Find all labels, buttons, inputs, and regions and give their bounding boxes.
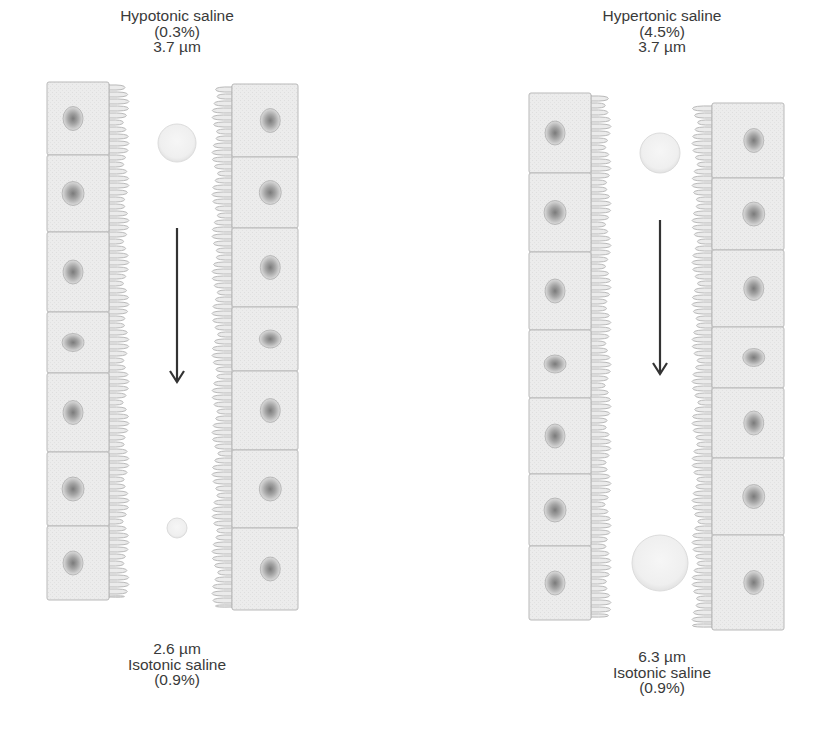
nucleus <box>544 355 566 373</box>
epithelial-cell <box>232 84 298 157</box>
droplet-final <box>632 535 688 591</box>
nucleus <box>260 256 280 280</box>
nucleus <box>544 201 566 225</box>
left-cell-column <box>47 82 129 600</box>
nucleus <box>62 182 84 206</box>
nucleus <box>260 399 280 423</box>
droplet-size-end: 6.3 µm <box>567 649 757 665</box>
epithelial-cell <box>232 307 298 371</box>
solution-name: Isotonic saline <box>87 657 267 673</box>
nucleus <box>63 107 83 131</box>
nucleus <box>63 260 83 284</box>
nucleus <box>544 498 566 522</box>
epithelial-cell <box>232 450 298 528</box>
hypotonic-top-label: Hypotonic saline (0.3%) 3.7 µm <box>87 8 267 55</box>
microvilli <box>109 84 129 598</box>
solution-name: Hypotonic saline <box>87 8 267 24</box>
epithelial-cell <box>47 312 109 373</box>
nucleus <box>744 411 764 435</box>
microvilli <box>591 95 611 618</box>
epithelial-cell <box>712 535 784 630</box>
epithelial-cell <box>712 388 784 458</box>
down-arrow-icon <box>653 220 667 374</box>
epithelial-cell <box>47 373 109 452</box>
nucleus <box>743 349 765 367</box>
nucleus <box>259 477 281 501</box>
solution-concentration: (4.5%) <box>567 24 757 40</box>
right-cell-column <box>692 103 784 630</box>
epithelial-cell <box>529 252 591 330</box>
nucleus <box>744 277 764 301</box>
nucleus <box>259 181 281 205</box>
solution-concentration: (0.3%) <box>87 24 267 40</box>
epithelial-cell <box>712 458 784 535</box>
nucleus <box>260 557 280 581</box>
microvilli <box>692 105 712 628</box>
epithelial-cell <box>712 250 784 327</box>
nucleus <box>545 424 565 448</box>
epithelial-cell <box>529 474 591 546</box>
nucleus <box>743 202 765 226</box>
nucleus <box>63 401 83 425</box>
solution-name: Hypertonic saline <box>567 8 757 24</box>
nucleus <box>259 330 281 348</box>
nucleus <box>743 485 765 509</box>
epithelial-cell <box>712 178 784 250</box>
hypertonic-top-label: Hypertonic saline (4.5%) 3.7 µm <box>567 8 757 55</box>
epithelial-cell <box>47 82 109 155</box>
right-cell-column <box>212 84 298 610</box>
nucleus <box>744 129 764 153</box>
epithelial-cell <box>529 546 591 620</box>
solution-concentration: (0.9%) <box>567 680 757 696</box>
nucleus <box>545 571 565 595</box>
nucleus <box>63 551 83 575</box>
nucleus <box>545 279 565 303</box>
epithelial-cell <box>232 528 298 610</box>
epithelial-cell <box>712 103 784 178</box>
droplet-initial <box>158 124 196 162</box>
epithelial-cell <box>232 228 298 307</box>
nucleus <box>545 121 565 145</box>
solution-concentration: (0.9%) <box>87 672 267 688</box>
epithelial-cell <box>47 452 109 526</box>
epithelial-cell <box>47 526 109 600</box>
nucleus <box>260 109 280 133</box>
droplet-size-end: 2.6 µm <box>87 641 267 657</box>
down-arrow-icon <box>170 228 184 382</box>
epithelial-cell <box>529 173 591 252</box>
epithelial-cell <box>529 93 591 173</box>
nucleus <box>62 334 84 352</box>
hypertonic-diagram <box>529 93 784 630</box>
epithelial-cell <box>529 398 591 474</box>
epithelial-cell <box>47 155 109 232</box>
hypotonic-bottom-label: 2.6 µm Isotonic saline (0.9%) <box>87 641 267 688</box>
left-cell-column <box>529 93 611 620</box>
epithelial-cell <box>712 327 784 388</box>
droplet-size-start: 3.7 µm <box>567 39 757 55</box>
droplet-initial <box>640 133 680 173</box>
droplet-final <box>167 518 187 538</box>
solution-name: Isotonic saline <box>567 665 757 681</box>
droplet-size-start: 3.7 µm <box>87 39 267 55</box>
hypotonic-diagram <box>47 82 298 610</box>
epithelial-cell <box>232 371 298 450</box>
epithelial-cell <box>529 330 591 398</box>
hypertonic-bottom-label: 6.3 µm Isotonic saline (0.9%) <box>567 649 757 696</box>
nucleus <box>62 477 84 501</box>
microvilli <box>212 86 232 608</box>
nucleus <box>744 571 764 595</box>
epithelial-cell <box>47 232 109 312</box>
epithelial-cell <box>232 157 298 228</box>
diagram-canvas <box>0 0 815 735</box>
